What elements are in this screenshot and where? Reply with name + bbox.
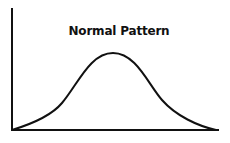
bell-curve <box>12 53 216 130</box>
chart-plot <box>0 0 230 143</box>
normal-distribution-chart: Normal Pattern <box>0 0 230 143</box>
